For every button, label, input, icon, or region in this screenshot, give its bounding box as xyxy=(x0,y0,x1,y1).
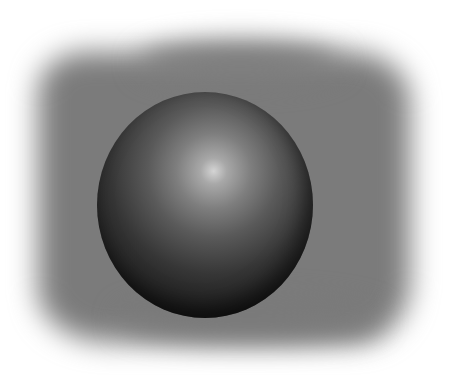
shaded-sphere xyxy=(97,92,313,318)
image-canvas xyxy=(0,0,458,387)
backdrop-top-bulge xyxy=(140,42,340,82)
